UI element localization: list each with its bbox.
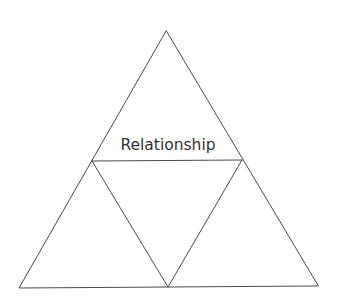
mid-horizontal-line — [92, 160, 242, 161]
triangle-diagram: Relationship — [0, 0, 341, 305]
section-label-top: Relationship — [120, 136, 215, 154]
inner-right-diagonal — [168, 160, 242, 287]
inner-left-diagonal — [92, 161, 168, 287]
outer-triangle — [19, 31, 318, 288]
